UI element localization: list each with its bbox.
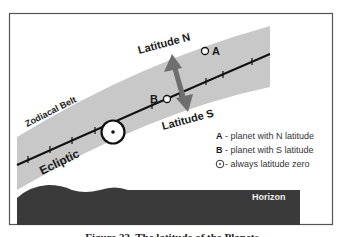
planet-a-label: A [212, 45, 220, 57]
planet-a-marker [202, 48, 209, 55]
legend-sun-dot-icon [219, 163, 221, 165]
figure-caption: Figure 23. The latitude of the Planets [85, 231, 259, 237]
legend-item-sun: - always latitude zero [225, 159, 310, 169]
diagram-canvas: A B Zodiacal Belt Ecliptic Latitude N La… [0, 0, 344, 237]
planet-b-label: B [150, 93, 158, 105]
legend-item-a: A - planet with N latitude [216, 131, 314, 141]
sun-symbol [102, 121, 125, 144]
legend: A - planet with N latitude B - planet wi… [216, 131, 314, 169]
legend-item-b: B - planet with S latitude [216, 145, 314, 155]
horizon-label: Horizon [252, 192, 286, 202]
planet-b-marker [164, 96, 171, 103]
horizon-ground [17, 185, 300, 225]
